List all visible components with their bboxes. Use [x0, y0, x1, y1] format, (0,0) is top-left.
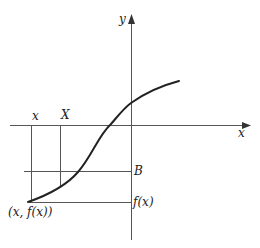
x-axis-label: x [238, 127, 245, 139]
x-axis [10, 122, 251, 129]
label-fx: f(x) [133, 196, 154, 208]
function-curve [28, 81, 179, 202]
label-big-X: X [61, 109, 70, 121]
label-small-x: x [32, 110, 39, 122]
y-axis-label: y [119, 13, 126, 25]
label-point: (x, f(x)) [8, 206, 52, 218]
y-axis-arrow-icon [128, 14, 135, 24]
label-B: B [134, 165, 143, 177]
